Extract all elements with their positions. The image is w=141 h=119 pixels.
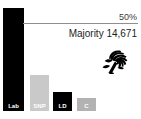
majority-label: Majority 14,671	[69, 28, 137, 40]
bar-label-lab: Lab	[3, 103, 24, 110]
bar-label-con: C	[77, 103, 96, 110]
threshold-line-50-percent	[23, 23, 138, 24]
bar-label-snp: SNP	[30, 103, 49, 110]
election-bar-chart: Lab SNP LD C 50% Majority 14,671	[0, 0, 141, 119]
labour-rose-icon	[101, 48, 134, 78]
bar-con: C	[77, 98, 96, 111]
bar-label-ld: LD	[53, 103, 72, 110]
bar-snp: SNP	[30, 75, 49, 111]
bar-ld: LD	[53, 92, 72, 111]
threshold-label: 50%	[119, 12, 137, 22]
bar-lab: Lab	[3, 8, 24, 111]
